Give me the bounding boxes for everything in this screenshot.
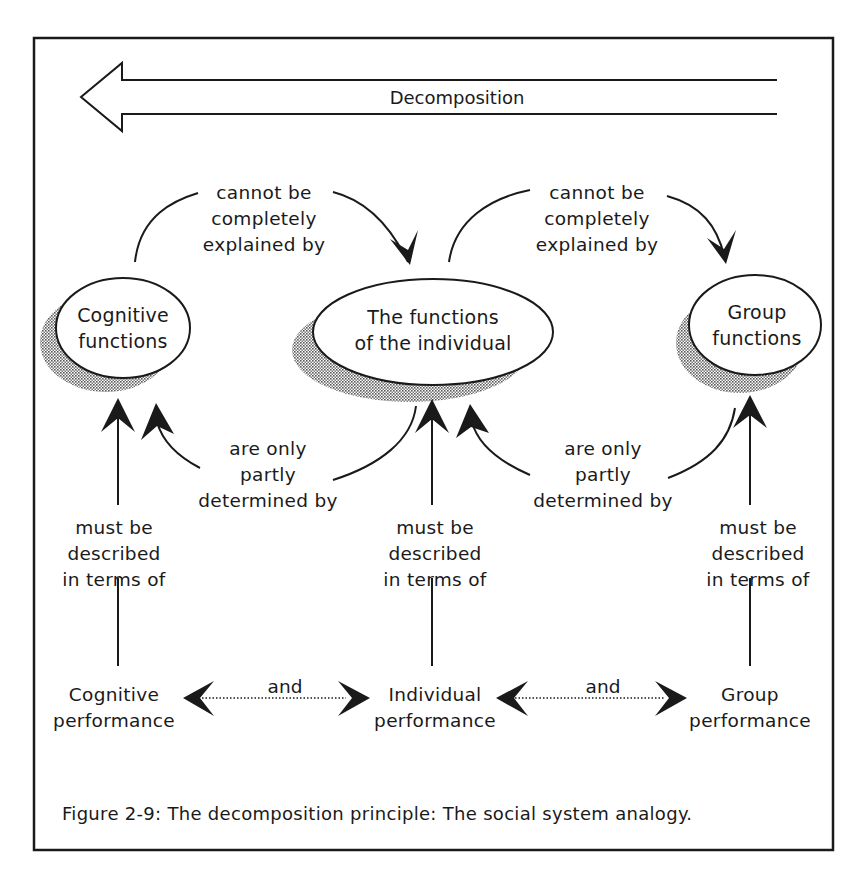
- label-line: in terms of: [706, 567, 809, 593]
- node-line: Cognitive: [77, 302, 169, 328]
- label-line: completely: [203, 206, 325, 232]
- label-line: must be: [706, 515, 809, 541]
- described-label-cognitive: must be described in terms of: [62, 515, 165, 593]
- figure-caption: Figure 2-9: The decomposition principle:…: [62, 803, 692, 824]
- label-line: described: [383, 541, 486, 567]
- label-line: must be: [383, 515, 486, 541]
- label-line: determined by: [198, 488, 338, 514]
- cognitive-performance-label: Cognitive performance: [53, 682, 175, 734]
- label-line: explained by: [203, 232, 325, 258]
- label-line: Individual: [374, 682, 496, 708]
- label-line: are only: [198, 436, 338, 462]
- label-line: cannot be: [536, 180, 658, 206]
- partly-determined-label-left: are only partly determined by: [198, 436, 338, 514]
- label-line: performance: [53, 708, 175, 734]
- label-line: Cognitive: [53, 682, 175, 708]
- label-line: in terms of: [383, 567, 486, 593]
- label-line: are only: [533, 436, 673, 462]
- label-line: partly: [198, 462, 338, 488]
- label-line: described: [706, 541, 809, 567]
- group-functions-node: Group functions: [712, 299, 801, 351]
- label-line: in terms of: [62, 567, 165, 593]
- diagram-canvas: [0, 0, 859, 874]
- individual-performance-label: Individual performance: [374, 682, 496, 734]
- label-line: performance: [374, 708, 496, 734]
- and-label-right: and: [586, 676, 621, 697]
- label-line: must be: [62, 515, 165, 541]
- decomposition-label: Decomposition: [390, 87, 525, 108]
- cannot-explain-label-left: cannot be completely explained by: [203, 180, 325, 258]
- node-line: functions: [712, 325, 801, 351]
- cannot-explain-label-right: cannot be completely explained by: [536, 180, 658, 258]
- label-line: performance: [689, 708, 811, 734]
- label-line: cannot be: [203, 180, 325, 206]
- group-performance-label: Group performance: [689, 682, 811, 734]
- label-line: determined by: [533, 488, 673, 514]
- label-line: described: [62, 541, 165, 567]
- label-line: Group: [689, 682, 811, 708]
- cognitive-functions-node: Cognitive functions: [77, 302, 169, 354]
- node-line: of the individual: [354, 330, 511, 356]
- node-line: The functions: [354, 304, 511, 330]
- individual-functions-node: The functions of the individual: [354, 304, 511, 356]
- label-line: completely: [536, 206, 658, 232]
- described-label-individual: must be described in terms of: [383, 515, 486, 593]
- partly-determined-label-right: are only partly determined by: [533, 436, 673, 514]
- node-line: Group: [712, 299, 801, 325]
- label-line: explained by: [536, 232, 658, 258]
- node-line: functions: [77, 328, 169, 354]
- label-line: partly: [533, 462, 673, 488]
- and-label-left: and: [268, 676, 303, 697]
- described-label-group: must be described in terms of: [706, 515, 809, 593]
